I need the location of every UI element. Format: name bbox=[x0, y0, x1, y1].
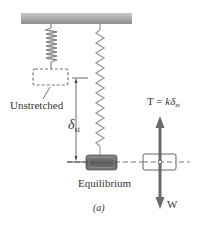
figure-caption: (a) bbox=[93, 203, 105, 213]
unstretched-leader-line bbox=[43, 87, 50, 99]
center-of-mass-point bbox=[158, 160, 162, 164]
unstretched-label: Unstretched bbox=[10, 100, 63, 111]
unstretched-spring bbox=[46, 24, 57, 69]
tension-equals: = bbox=[154, 95, 166, 107]
tension-subscript: st bbox=[175, 101, 180, 109]
weight-label: W bbox=[167, 199, 177, 210]
stretched-spring bbox=[96, 24, 104, 155]
ceiling-support bbox=[21, 13, 132, 24]
spring-mass-diagram bbox=[0, 0, 203, 229]
deflection-label: δst bbox=[68, 118, 80, 134]
equilibrium-label: Equilibrium bbox=[78, 178, 131, 189]
tension-label: T = kδst bbox=[147, 96, 180, 109]
delta-subscript: st bbox=[75, 125, 80, 134]
unstretched-position-box bbox=[33, 69, 68, 85]
